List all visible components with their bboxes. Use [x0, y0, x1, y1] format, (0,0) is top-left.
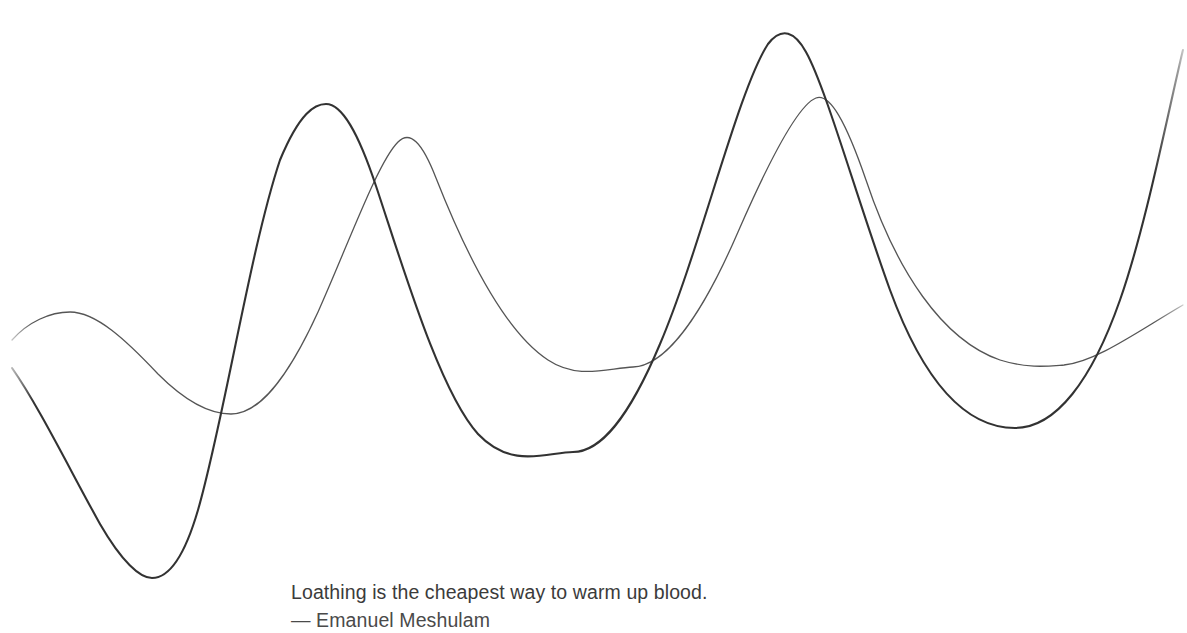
wave-illustration — [0, 0, 1187, 633]
quote-block: Loathing is the cheapest way to warm up … — [291, 578, 1051, 633]
artwork-canvas: Loathing is the cheapest way to warm up … — [0, 0, 1187, 633]
wave-curve-light — [12, 97, 1183, 414]
wave-curve-dark — [12, 33, 1183, 578]
quote-text: Loathing is the cheapest way to warm up … — [291, 578, 1051, 606]
quote-attribution: — Emanuel Meshulam — [291, 606, 1051, 633]
